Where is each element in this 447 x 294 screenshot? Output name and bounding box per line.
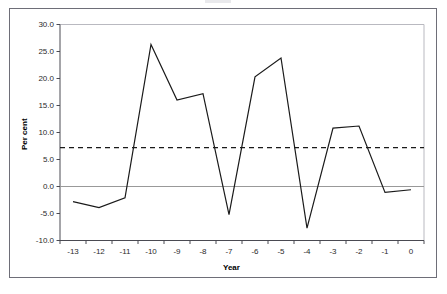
y-axis-title: Per cent [20,118,29,150]
y-tick-label: 25.0 [26,47,54,56]
x-tick-label: -9 [165,247,189,256]
y-tick-label: -5.0 [26,209,54,218]
y-axis-ticks [57,25,61,241]
y-tick-label: 30.0 [26,20,54,29]
x-tick-label: -13 [61,247,85,256]
y-tick-label: 15.0 [26,101,54,110]
y-tick-label: 0.0 [26,182,54,191]
x-tick-label: -12 [87,247,111,256]
y-tick-label: 20.0 [26,74,54,83]
x-tick-label: -11 [113,247,137,256]
y-tick-label: -10.0 [22,236,54,245]
y-tick-label: 10.0 [26,128,54,137]
x-axis-ticks [60,241,424,245]
x-tick-label: 0 [399,247,423,256]
chart-figure: 30.0 25.0 20.0 15.0 10.0 5.0 0.0 -5.0 -1… [0,0,447,294]
x-tick-label: -8 [191,247,215,256]
x-tick-label: -7 [217,247,241,256]
x-axis-title: Year [223,263,240,272]
y-tick-label: 5.0 [26,155,54,164]
x-tick-label: -4 [295,247,319,256]
x-tick-label: -2 [347,247,371,256]
x-tick-label: -3 [321,247,345,256]
x-tick-label: -10 [139,247,163,256]
plot-frame [60,25,424,241]
x-tick-label: -5 [269,247,293,256]
x-tick-label: -1 [373,247,397,256]
x-tick-label: -6 [243,247,267,256]
